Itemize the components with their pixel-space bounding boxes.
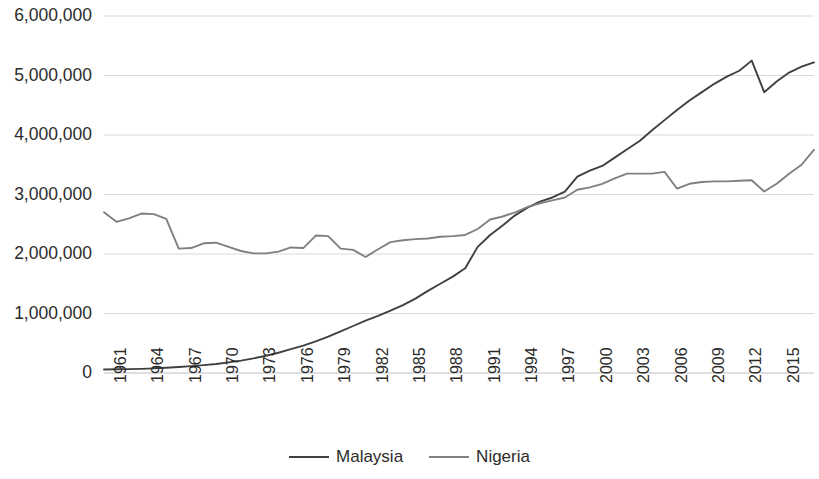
y-axis-tick-label: 2,000,000 <box>14 243 92 264</box>
x-axis-tick-label: 1976 <box>299 347 317 383</box>
x-axis-tick-label: 2000 <box>598 347 616 383</box>
chart-plot-area <box>0 0 819 479</box>
x-axis-tick-label: 2003 <box>635 347 653 383</box>
x-axis-tick-label: 1991 <box>486 347 504 383</box>
y-axis-tick-label: 1,000,000 <box>14 303 92 324</box>
data-series-group <box>104 61 814 370</box>
y-axis-tick-label: 5,000,000 <box>14 65 92 86</box>
x-axis-tick-label: 1997 <box>560 347 578 383</box>
x-axis-tick-label: 1985 <box>411 347 429 383</box>
legend-label: Nigeria <box>476 448 530 465</box>
legend-line-swatch <box>289 456 329 458</box>
x-axis-tick-label: 1988 <box>448 347 466 383</box>
x-axis-tick-label: 1970 <box>224 347 242 383</box>
legend-label: Malaysia <box>336 448 403 465</box>
x-axis-tick-label: 2006 <box>673 347 691 383</box>
x-axis-tick-label: 1961 <box>112 347 130 383</box>
legend-line-swatch <box>429 456 469 458</box>
x-axis-tick-label: 2012 <box>747 347 765 383</box>
series-line-malaysia <box>104 61 814 370</box>
x-axis-tick-label: 1994 <box>523 347 541 383</box>
x-axis-tick-label: 1982 <box>374 347 392 383</box>
x-axis-tick-label: 2009 <box>710 347 728 383</box>
x-axis-tick-label: 1967 <box>187 347 205 383</box>
legend-entry-nigeria[interactable]: Nigeria <box>429 448 530 465</box>
x-axis-tick-label: 1973 <box>261 347 279 383</box>
x-axis-tick-label: 2015 <box>785 347 803 383</box>
y-axis-tick-label: 6,000,000 <box>14 5 92 26</box>
y-axis-tick-label: 4,000,000 <box>14 124 92 145</box>
series-line-nigeria <box>104 150 814 257</box>
x-axis-tick-label: 1964 <box>149 347 167 383</box>
x-axis-tick-label: 1979 <box>336 347 354 383</box>
y-axis-tick-label: 3,000,000 <box>14 184 92 205</box>
legend-entry-malaysia[interactable]: Malaysia <box>289 448 403 465</box>
chart-legend: MalaysiaNigeria <box>0 448 819 465</box>
gridlines <box>104 16 814 373</box>
line-chart: 6,000,0005,000,0004,000,0003,000,0002,00… <box>0 0 819 479</box>
y-axis-tick-label: 0 <box>82 362 92 383</box>
